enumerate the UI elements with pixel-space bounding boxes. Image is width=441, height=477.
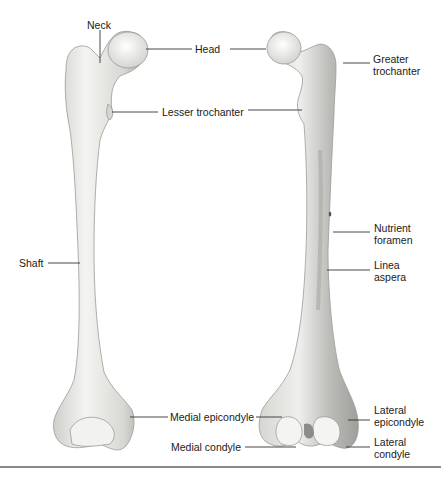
bottom-rule bbox=[0, 466, 441, 468]
label-linea-aspera-line1: Linea bbox=[374, 259, 400, 271]
anterior-femur bbox=[54, 31, 149, 450]
label-lateral-epicondyle-line2: epicondyle bbox=[374, 416, 424, 428]
label-shaft: Shaft bbox=[19, 257, 44, 269]
femur-diagram: Neck Head Greater trochanter Lesser troc… bbox=[0, 0, 441, 477]
label-lateral-condyle-line1: Lateral bbox=[374, 436, 406, 448]
label-lateral-epicondyle-line1: Lateral bbox=[374, 404, 406, 416]
label-greater-trochanter-line1: Greater bbox=[373, 53, 409, 65]
label-linea-aspera-line2: aspera bbox=[374, 271, 406, 283]
label-head: Head bbox=[195, 43, 220, 55]
label-nutrient-foramen-line2: foramen bbox=[374, 234, 413, 246]
label-nutrient-foramen-line1: Nutrient bbox=[374, 222, 411, 234]
label-lateral-condyle-line2: condyle bbox=[374, 448, 410, 460]
label-greater-trochanter-line2: trochanter bbox=[373, 65, 420, 77]
label-neck: Neck bbox=[87, 19, 111, 31]
label-lesser-trochanter: Lesser trochanter bbox=[162, 106, 244, 118]
posterior-femur bbox=[259, 32, 358, 449]
label-medial-condyle: Medial condyle bbox=[171, 441, 241, 453]
label-medial-epicondyle: Medial epicondyle bbox=[170, 411, 254, 423]
